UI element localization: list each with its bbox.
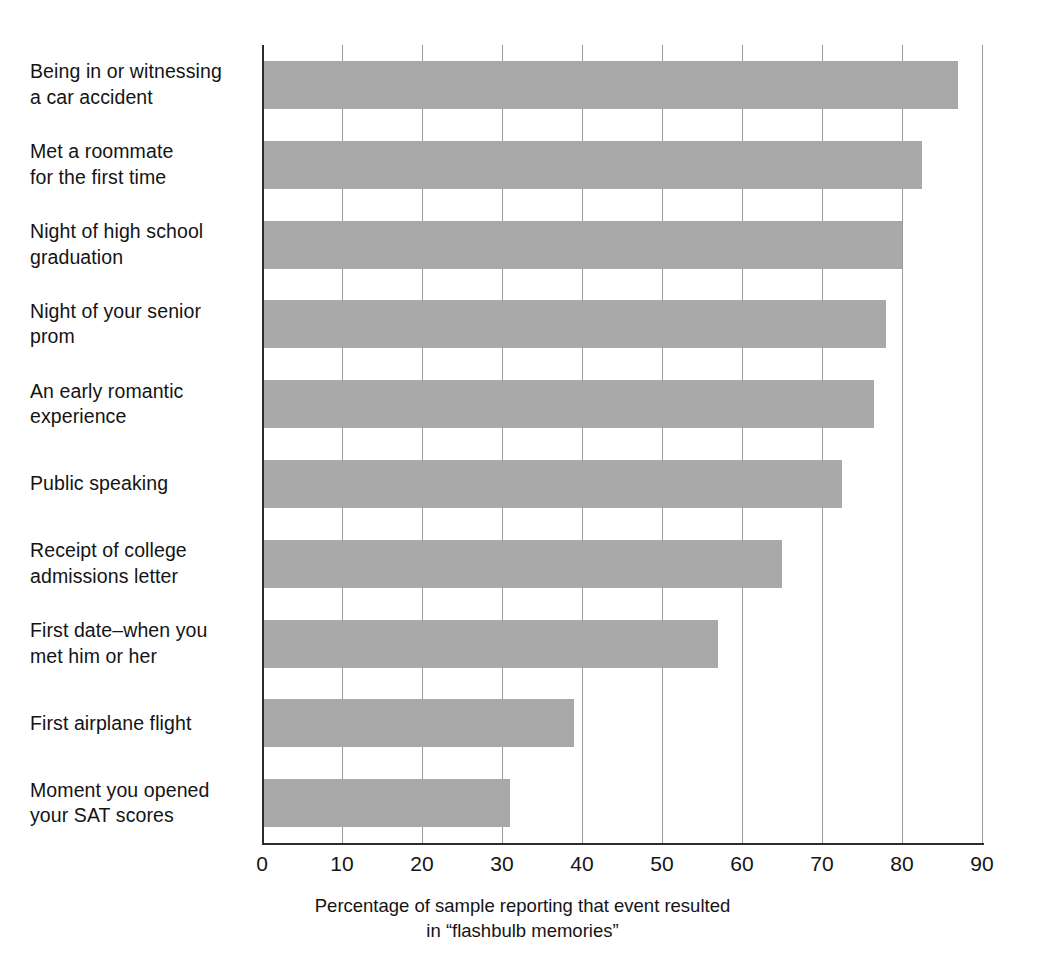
x-tick-label: 40 (570, 851, 593, 877)
category-label-line: Moment you opened (30, 778, 252, 804)
bar (262, 779, 510, 827)
category-label: Moment you openedyour SAT scores (30, 778, 252, 829)
category-label-line: graduation (30, 245, 252, 271)
category-label: An early romanticexperience (30, 379, 252, 430)
category-label-line: Being in or witnessing (30, 59, 252, 85)
category-label-line: Night of your senior (30, 299, 252, 325)
x-tick-label: 20 (410, 851, 433, 877)
flashbulb-memories-bar-chart: Being in or witnessinga car accidentMet … (0, 0, 1045, 960)
bar (262, 699, 574, 747)
category-label-line: a car accident (30, 85, 252, 111)
y-axis-line (262, 45, 264, 845)
category-label: Met a roommatefor the first time (30, 139, 252, 190)
category-label-line: prom (30, 324, 252, 350)
x-tick-label: 70 (810, 851, 833, 877)
x-axis-tick-labels: 0102030405060708090 (0, 851, 1045, 883)
category-label-line: Night of high school (30, 219, 252, 245)
category-label-line: First airplane flight (30, 711, 252, 737)
x-axis-title: Percentage of sample reporting that even… (0, 893, 1045, 943)
category-label-line: Public speaking (30, 471, 252, 497)
category-label: First airplane flight (30, 711, 252, 737)
x-tick-label: 90 (970, 851, 993, 877)
bar (262, 540, 782, 588)
category-label-line: met him or her (30, 644, 252, 670)
x-tick-label: 0 (256, 851, 268, 877)
bar (262, 61, 958, 109)
bar (262, 221, 902, 269)
x-axis-title-line-2: in “flashbulb memories” (0, 918, 1045, 943)
category-label: Night of your seniorprom (30, 299, 252, 350)
bar (262, 141, 922, 189)
x-tick-label: 50 (650, 851, 673, 877)
x-axis-title-line-1: Percentage of sample reporting that even… (0, 893, 1045, 918)
x-tick-label: 60 (730, 851, 753, 877)
bar (262, 300, 886, 348)
category-label-line: An early romantic (30, 379, 252, 405)
category-label-line: experience (30, 404, 252, 430)
category-label: Night of high schoolgraduation (30, 219, 252, 270)
bar (262, 460, 842, 508)
category-label: Public speaking (30, 471, 252, 497)
category-label: Receipt of collegeadmissions letter (30, 538, 252, 589)
category-label-line: for the first time (30, 165, 252, 191)
category-label-line: your SAT scores (30, 803, 252, 829)
bar (262, 380, 874, 428)
gridline (982, 45, 983, 843)
category-label-line: First date–when you (30, 618, 252, 644)
category-axis-labels: Being in or witnessinga car accidentMet … (30, 45, 252, 843)
x-axis-line (262, 843, 984, 845)
category-label-line: admissions letter (30, 564, 252, 590)
x-tick-label: 10 (330, 851, 353, 877)
plot-area (262, 45, 982, 843)
bar (262, 620, 718, 668)
category-label-line: Receipt of college (30, 538, 252, 564)
category-label-line: Met a roommate (30, 139, 252, 165)
x-tick-label: 80 (890, 851, 913, 877)
category-label: Being in or witnessinga car accident (30, 59, 252, 110)
category-label: First date–when youmet him or her (30, 618, 252, 669)
x-tick-label: 30 (490, 851, 513, 877)
